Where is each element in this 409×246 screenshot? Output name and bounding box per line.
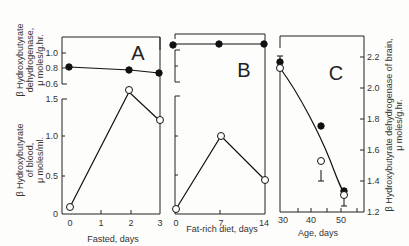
a-top-ytick: 0.8 [45,63,58,73]
a-xtick: 1 [98,218,103,228]
c-ytick: 2.0 [367,83,380,93]
point-b-enzyme-0 [170,42,176,48]
c-ytick: 1.6 [367,145,380,155]
a-top-ylabel: β Hydroxybutyrate dehydrogenase, μ moles… [15,23,45,96]
b-xtick: 0 [173,218,178,228]
panel-c-fitted-curve [280,68,347,196]
c-xtick: 50 [336,215,346,225]
a-top-ytick: 1.0 [45,48,58,58]
panel-a-enzyme-line [69,67,159,73]
point-c-filled-43 [318,123,324,129]
point-b-enzyme-14 [261,41,267,47]
b-xtick: 14 [259,218,269,228]
svg-text:dehydrogenase,: dehydrogenase, [25,28,35,93]
c-xtick: 30 [278,215,288,225]
point-a-blood-0 [67,204,74,211]
point-c-open-43 [318,158,325,165]
panel-a-frame-top [62,37,160,50]
b-xlabel: Fat-rich diet, days [186,224,258,234]
c-xlabel: Age, days [298,228,339,238]
a-bottom-ytick: 1.0 [45,131,58,141]
panel-b-blood-line [176,136,265,209]
svg-text:μ moles/g.hr.: μ moles/g.hr. [35,34,45,86]
panel-a-blood-line [70,92,160,207]
a-bottom-ytick: 1.5 [45,94,58,104]
point-b-blood-14 [262,177,269,184]
svg-text:of blood,: of blood, [25,143,35,178]
panel-c-letter: C [329,62,343,84]
c-ylabel: β Hydroxybutyrate dehydrogenase of brain… [384,39,404,212]
a-xtick: 0 [67,218,72,228]
a-xlabel: Fasted, days [87,234,139,244]
panel-b-letter: B [237,59,250,81]
figure: A B C 1.0 0.8 0.6 1.5 1.0 0.5 0 0 1 2 3 … [0,0,409,246]
a-xtick: 3 [157,218,162,228]
svg-text:β Hydroxybutyrate: β Hydroxybutyrate [15,23,25,96]
point-c-open-50 [341,192,348,199]
a-top-ytick: 0.6 [45,79,58,89]
svg-text:β Hydroxybutyrate dehydrogenas: β Hydroxybutyrate dehydrogenase of brain… [384,39,394,212]
point-a-blood-2 [126,87,133,94]
c-ytick: 2.2 [367,52,380,62]
a-bottom-ytick: 0.5 [45,171,58,181]
panel-b-frame [175,34,265,214]
point-a-enzyme-3 [156,70,162,76]
svg-text:μ moles/g.hr.: μ moles/g.hr. [394,99,404,151]
c-xtick: 40 [306,215,316,225]
point-a-enzyme-2 [126,67,132,73]
panel-a-letter: A [131,42,145,64]
a-xtick: 2 [128,218,133,228]
svg-text:μ moles/ml.: μ moles/ml. [35,137,45,183]
point-a-blood-3 [157,117,164,124]
point-a-enzyme-0 [66,64,72,70]
point-c-open-30 [277,65,284,72]
point-b-blood-7 [218,133,225,140]
c-ytick: 1.8 [367,114,380,124]
point-b-enzyme-7 [216,41,222,47]
c-ytick: 1.2 [367,207,380,217]
svg-text:β Hydroxybutyrate: β Hydroxybutyrate [15,123,25,196]
c-ytick: 1.4 [367,176,380,186]
a-bottom-ytick: 0 [53,209,58,219]
chart-canvas: A B C 1.0 0.8 0.6 1.5 1.0 0.5 0 0 1 2 3 … [0,0,409,246]
point-b-blood-0 [173,206,180,213]
a-bottom-ylabel: β Hydroxybutyrate of blood, μ moles/ml. [15,123,45,196]
